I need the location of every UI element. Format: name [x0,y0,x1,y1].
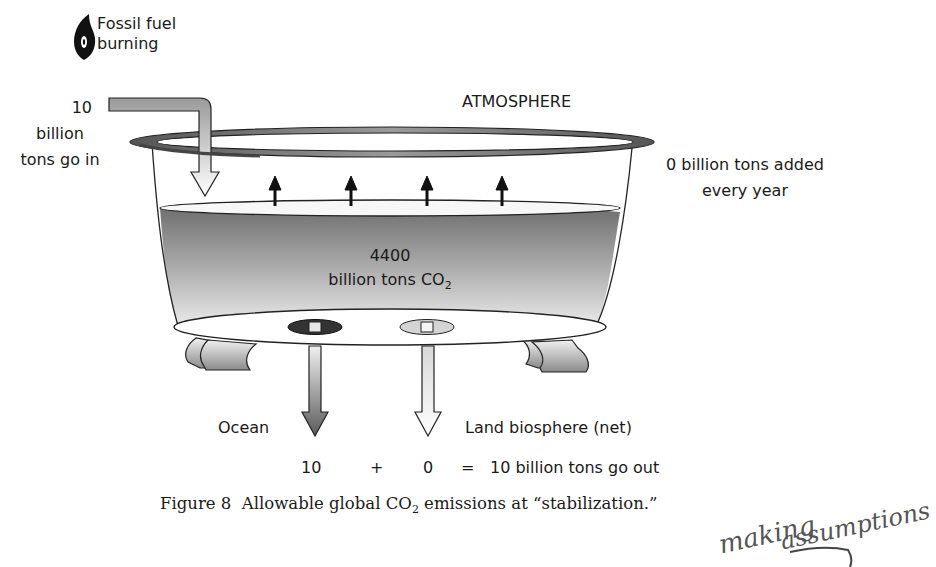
water-surface [160,200,620,216]
plus-sign: + [370,458,383,478]
added-line2: every year [640,178,850,204]
inflow-amount-label: 10 [30,95,92,121]
inflow-line2: billion [10,121,110,147]
reservoir-unit: billion tons CO2 [300,268,480,298]
equals-sign: = [461,458,474,478]
flame-icon [74,14,95,60]
caption-text: Allowable global CO [242,494,412,513]
caption-suffix: emissions at “stabilization.” [419,494,658,513]
ocean-label: Ocean [218,418,269,438]
reservoir-label: 4400 billion tons CO2 [300,244,480,298]
fossil-fuel-label: Fossil fuel burning [97,14,176,54]
atmosphere-added-label: 0 billion tons added every year [640,152,850,204]
added-line1: 0 billion tons added [640,152,850,178]
reservoir-unit-text: billion tons CO [328,270,444,289]
figure-number: Figure 8 [160,494,231,513]
caption-sub: 2 [412,503,419,516]
inflow-line3: tons go in [10,147,110,173]
ocean-flux-value: 10 [301,458,321,478]
land-flux-value: 0 [423,458,433,478]
atmosphere-title: ATMOSPHERE [462,92,571,112]
tub-bottom [174,309,606,345]
reservoir-unit-sub: 2 [445,279,452,292]
fossil-fuel-line2: burning [97,34,176,54]
land-drain [400,320,454,335]
total-outflow: 10 billion tons go out [490,458,659,478]
bathtub-diagram: Fossil fuel burning 10 billion tons go i… [0,0,936,567]
inflow-amount: 10 [30,95,92,121]
ocean-drain [288,320,342,335]
inflow-units-label: billion tons go in [10,121,110,173]
land-biosphere-label: Land biosphere (net) [465,418,632,438]
fossil-fuel-line1: Fossil fuel [97,14,176,34]
ocean-outflow-arrow [302,346,328,436]
land-outflow-arrow [415,346,441,436]
figure-caption: Figure 8 Allowable global CO2 emissions … [160,494,657,516]
reservoir-amount: 4400 [300,244,480,268]
